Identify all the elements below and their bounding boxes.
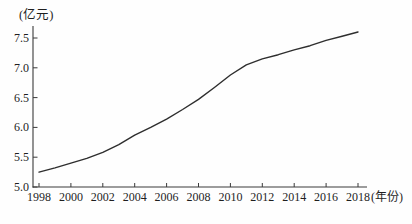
y-tick-label: 7.0 [14, 61, 29, 75]
y-tick-label: 6.5 [14, 91, 29, 105]
line-chart: (亿元) (年份) 5.05.56.06.57.07.5199820002002… [0, 0, 412, 224]
x-tick-label: 2012 [250, 190, 274, 204]
line-chart-figure: (亿元) (年份) 5.05.56.06.57.07.5199820002002… [0, 0, 412, 224]
y-axis-unit-label: (亿元) [19, 7, 53, 22]
y-tick-label: 7.5 [14, 31, 29, 45]
data-line-series [39, 32, 358, 172]
x-tick-label: 2008 [187, 190, 211, 204]
x-tick-label: 2018 [346, 190, 370, 204]
x-tick-label: 2016 [314, 190, 338, 204]
x-tick-label: 2006 [155, 190, 179, 204]
x-tick-label: 2000 [59, 190, 83, 204]
x-tick-label: 2004 [123, 190, 147, 204]
x-tick-label: 2014 [282, 190, 306, 204]
x-axis-unit-label: (年份) [371, 190, 403, 204]
y-tick-label: 5.5 [14, 150, 29, 164]
x-tick-label: 2010 [218, 190, 242, 204]
x-tick-label: 1998 [27, 190, 51, 204]
y-tick-label: 6.0 [14, 120, 29, 134]
x-tick-label: 2002 [91, 190, 115, 204]
